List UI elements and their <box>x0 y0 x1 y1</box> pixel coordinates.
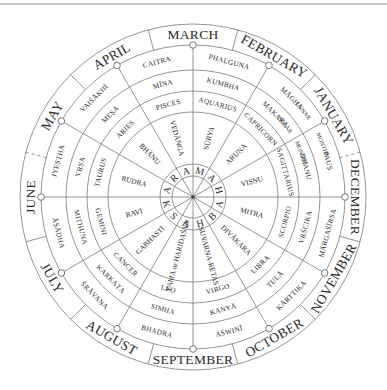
month-divider <box>340 152 360 157</box>
month-marker-dot <box>190 346 197 353</box>
aditya-label: DIVĀKARA <box>219 223 254 258</box>
month-label: MAY <box>38 99 67 133</box>
core-letter: H <box>195 217 205 229</box>
core-letter: H <box>213 185 225 195</box>
solar-month-label: MITHUNA <box>72 209 89 246</box>
month-marker-dot <box>58 270 65 277</box>
month-label: JUNE <box>23 180 38 214</box>
lunar-month-label: BHADRA <box>140 324 174 340</box>
solar-month-label: MĪNA <box>152 77 174 91</box>
solar-month-label: TULĀ <box>265 268 286 289</box>
solar-month-label: KANYĀ <box>209 301 238 317</box>
zodiac-label: GEMINI <box>93 207 108 236</box>
aditya-label: BHĀNU <box>137 141 162 166</box>
aditya-label: RUDRA <box>120 174 148 190</box>
month-marker-dot <box>321 270 328 277</box>
core-letter: A <box>213 198 226 209</box>
solar-month-label: KUMBHA <box>206 76 241 93</box>
month-label: SEPTEMBER <box>153 352 234 367</box>
aditya-label: VIṢṆU <box>240 174 265 189</box>
month-label: NOVEMBER <box>308 241 360 316</box>
zodiac-label: CANCER <box>112 251 140 279</box>
solar-month-label: VṚṢA <box>74 155 87 177</box>
month-label: OCTOBER <box>242 315 306 360</box>
month-marker-dot <box>266 62 273 69</box>
month-label: DECEMBER <box>348 159 363 235</box>
month-marker-dot <box>114 325 121 332</box>
solar-month-label: SIMHA <box>150 302 176 316</box>
aditya-label: SUVARṆA-RETAS <box>197 226 221 286</box>
month-divider <box>71 75 86 90</box>
month-divider <box>148 30 153 50</box>
month-marker-dot <box>114 62 121 69</box>
month-divider <box>26 236 46 241</box>
month-divider <box>71 304 86 319</box>
month-marker-dot <box>58 118 65 125</box>
lunar-month-label: ĀŚWINĪ <box>214 322 244 339</box>
month-marker-dot <box>38 194 45 201</box>
aditya-label: SŪRYA <box>201 125 216 151</box>
core-letter: K <box>161 199 174 210</box>
lunar-month-label: JYEṢṬHA <box>50 143 66 178</box>
zodiac-label: LIBRA <box>250 253 272 275</box>
lunar-month-label: ĀṢĀḌHA <box>50 216 67 249</box>
core-letter: M <box>194 164 206 177</box>
aditya-label: RAVI <box>125 206 144 219</box>
month-label: JULY <box>38 260 67 296</box>
lunar-month-label: PHALGUNA <box>208 53 251 72</box>
aditya-label: ARUṆA <box>224 141 249 166</box>
month-label: MARCH <box>167 27 218 42</box>
core-letter: A <box>181 164 192 177</box>
solar-month-label: VṚŚCIKA <box>295 209 314 245</box>
aditya-label: MITRA <box>239 205 265 220</box>
center-dot <box>191 195 195 199</box>
solar-month-label: KARKAṬA <box>95 263 127 295</box>
aditya-label: VEDĀṄGA <box>168 119 186 157</box>
month-marker-dot <box>266 325 273 332</box>
zodiac-label: SCORPIO <box>277 205 293 238</box>
core-letter: A <box>161 184 174 195</box>
month-divider <box>232 30 237 50</box>
lunar-month-label: CAITRA <box>142 55 172 70</box>
zodiac-label: PISCES <box>155 98 182 112</box>
month-divider <box>26 152 46 157</box>
month-marker-dot <box>321 118 328 125</box>
zodiac-label: TAURUS <box>93 157 108 188</box>
month-divider <box>340 236 360 241</box>
month-marker-dot <box>190 42 197 49</box>
calendar-wheel: MARCHFEBRUARYJANUARYDECEMBERNOVEMBEROCTO… <box>0 0 387 390</box>
month-marker-dot <box>342 194 349 201</box>
month-label: FEBRUARY <box>239 31 310 81</box>
